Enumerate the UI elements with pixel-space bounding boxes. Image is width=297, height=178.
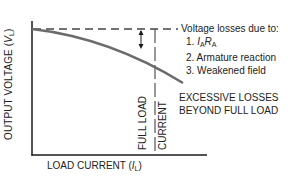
excess-line-1: EXCESSIVE LOSSES [179,91,279,104]
losses-heading: Voltage losses due to: [181,22,279,35]
full-load-label-line2: CURRENT [157,101,168,150]
arrow-down-head-icon [139,44,144,49]
excessive-losses-annotation: EXCESSIVE LOSSES BEYOND FULL LOAD [179,91,279,117]
x-axis-label: LOAD CURRENT (IL) [47,160,142,172]
voltage-curve [32,29,183,83]
y-axis-label: OUTPUT VOLTAGE (VL) [3,29,15,140]
excess-line-2: BEYOND FULL LOAD [179,104,279,117]
arrow-up-head-icon [139,30,144,35]
loss-item-2: 2. Armature reaction [181,51,279,64]
loss-item-3: 3. Weakened field [181,64,279,77]
voltage-losses-annotation: Voltage losses due to: 1. IARA 2. Armatu… [181,22,279,77]
full-load-label-line1: FULL LOAD [137,96,148,150]
loss-item-1: 1. IARA [181,35,279,51]
